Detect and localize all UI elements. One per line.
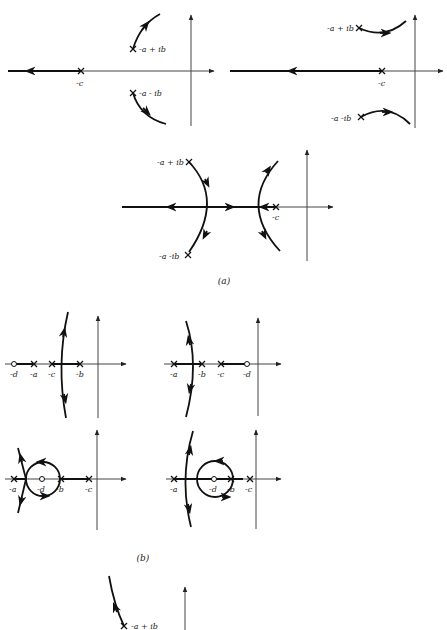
plot-a2: -c -a + ib -a -ib xyxy=(230,15,443,128)
label-d: -d xyxy=(37,485,45,494)
label-upper-pole: -a + ib xyxy=(139,45,166,54)
locus-branch xyxy=(109,576,124,626)
label-c: -c xyxy=(76,79,84,88)
zero-icon xyxy=(245,362,250,367)
label-c: -c xyxy=(217,370,225,379)
label-lower-pole: -a -ib xyxy=(159,252,179,261)
locus-branch xyxy=(186,321,193,417)
zero-icon xyxy=(212,477,217,482)
label-b: -b xyxy=(76,370,84,379)
plot-b2: -a -b -c -d xyxy=(164,318,281,417)
label-d: -d xyxy=(243,370,251,379)
label-c: -c xyxy=(272,213,280,222)
locus-upper xyxy=(359,21,406,33)
label-lower-pole: -a - ib xyxy=(139,89,162,98)
label-upper-pole: -a + ib xyxy=(327,24,354,33)
locus-upper xyxy=(133,14,160,49)
label-upper-pole: -a + ib xyxy=(131,622,158,630)
plot-c: -a + ib xyxy=(109,576,185,630)
label-a: -a xyxy=(9,485,17,494)
plot-a3: -c -a + ib -a -ib xyxy=(122,150,333,261)
zero-icon xyxy=(12,362,17,367)
zero-icon xyxy=(40,477,45,482)
label-d: -d xyxy=(209,485,217,494)
pole-icon xyxy=(185,252,191,258)
label-b: -b xyxy=(227,485,235,494)
plot-a1: -c -a + ib -a - ib xyxy=(8,14,214,126)
plot-b3: -a -d -b -c xyxy=(5,430,126,530)
caption-b: (b) xyxy=(137,553,150,563)
label-b: -b xyxy=(56,485,64,494)
label-c: -c xyxy=(245,485,253,494)
label-c: -c xyxy=(48,370,56,379)
plot-b1: -d -a -c -b xyxy=(5,312,126,418)
root-locus-figure: -c -a + ib -a - ib -c -a + ib -a -ib xyxy=(0,0,447,630)
label-d: -d xyxy=(10,370,18,379)
locus-branch xyxy=(61,312,68,418)
label-c: -c xyxy=(85,485,93,494)
label-a: -a xyxy=(170,485,178,494)
pole-icon xyxy=(186,159,192,165)
plot-b4: -a -d -b -c xyxy=(166,430,281,529)
label-b: -b xyxy=(198,370,206,379)
label-lower-pole: -a -ib xyxy=(331,114,351,123)
label-c: -c xyxy=(378,79,386,88)
label-a: -a xyxy=(170,370,178,379)
caption-a: (a) xyxy=(218,276,231,286)
label-a: -a xyxy=(30,370,38,379)
label-upper-pole: -a + ib xyxy=(157,158,184,167)
pole-icon xyxy=(358,114,364,120)
locus-branch xyxy=(18,448,26,513)
